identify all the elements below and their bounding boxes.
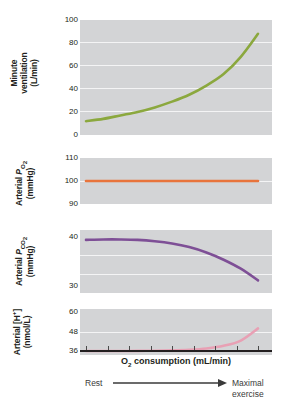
y-ticks-arterial-h: 60 48 36 bbox=[52, 305, 78, 360]
y-ticks-minute-ventilation: 100 80 60 40 20 0 bbox=[52, 0, 78, 148]
y-tick: 30 bbox=[69, 282, 78, 290]
panel-minute-ventilation: Minute ventilation (L/min) 100 80 60 40 … bbox=[0, 0, 289, 148]
respiratory-exercise-figure: Minute ventilation (L/min) 100 80 60 40 … bbox=[0, 0, 289, 415]
curve-minute-ventilation bbox=[80, 20, 272, 135]
annotation-maximal-line1: Maximal bbox=[232, 378, 264, 388]
x-axis-label: O2 consumption (mL/min) bbox=[80, 356, 272, 366]
annotation-rest: Rest bbox=[85, 378, 102, 389]
y-tick: 36 bbox=[69, 347, 78, 355]
y-ticks-arterial-pco2: 40 30 bbox=[52, 223, 78, 305]
y-tick: 40 bbox=[69, 233, 78, 241]
curve-arterial-po2 bbox=[80, 158, 272, 204]
y-tick: 110 bbox=[65, 154, 78, 162]
y-tick: 0 bbox=[74, 131, 78, 139]
x-tick bbox=[129, 346, 130, 350]
plot-area-arterial-h bbox=[80, 309, 272, 355]
x-tick bbox=[172, 346, 173, 350]
plot-area-arterial-po2 bbox=[80, 158, 272, 204]
x-tick bbox=[194, 346, 195, 350]
annotation-maximal-exercise: Maximal exercise bbox=[232, 378, 289, 399]
y-tick: 40 bbox=[69, 85, 78, 93]
y-axis-label-minute-ventilation: Minute ventilation (L/min) bbox=[9, 13, 39, 133]
curve-arterial-pco2 bbox=[80, 230, 272, 293]
x-tick bbox=[237, 346, 238, 350]
y-ticks-arterial-po2: 110 100 90 bbox=[52, 148, 78, 223]
x-tick bbox=[215, 346, 216, 350]
x-tick bbox=[86, 346, 87, 350]
x-axis-line bbox=[80, 350, 272, 352]
annotation-maximal-line2: exercise bbox=[232, 389, 264, 399]
y-tick: 100 bbox=[65, 177, 78, 185]
panel-arterial-po2: Arterial PO2 (mmHg) 110 100 90 bbox=[0, 148, 289, 223]
panel-arterial-h: Arterial [H+] (nmol/L) 60 48 36 bbox=[0, 305, 289, 360]
y-tick: 48 bbox=[69, 328, 78, 336]
y-tick: 60 bbox=[69, 62, 78, 70]
curve-arterial-h bbox=[80, 309, 272, 355]
y-tick: 100 bbox=[65, 16, 78, 24]
x-tick bbox=[108, 346, 109, 350]
y-tick: 20 bbox=[69, 108, 78, 116]
y-tick: 60 bbox=[69, 308, 78, 316]
progress-arrow-icon bbox=[113, 376, 228, 394]
y-tick: 80 bbox=[69, 39, 78, 47]
y-tick: 90 bbox=[69, 200, 78, 208]
y-axis-label-arterial-h: Arterial [H+] (nmol/L) bbox=[12, 272, 32, 392]
panel-arterial-pco2: Arterial PCO2 (mmHg) 40 30 bbox=[0, 223, 289, 305]
plot-area-arterial-pco2 bbox=[80, 230, 272, 293]
plot-area-minute-ventilation bbox=[80, 20, 272, 135]
x-tick bbox=[258, 346, 259, 350]
x-tick bbox=[151, 346, 152, 350]
